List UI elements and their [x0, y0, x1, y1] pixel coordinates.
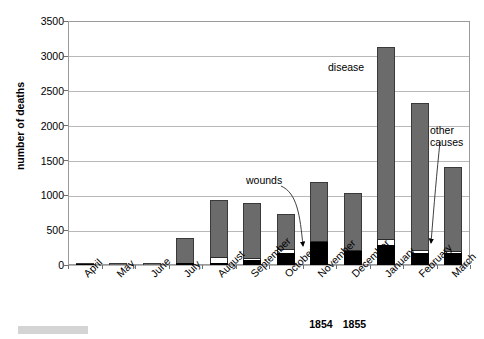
x-tick-mark [202, 265, 203, 269]
x-tick-mark [236, 265, 237, 269]
segment-disease [411, 103, 429, 251]
segment-disease [377, 47, 395, 239]
annotation-other-causes: other causes [430, 124, 463, 148]
footer-swatch [18, 326, 88, 334]
y-tick-label: 500 [24, 225, 64, 235]
x-tick-mark [470, 265, 471, 269]
x-tick-mark [336, 265, 337, 269]
y-tick-label: 3000 [24, 51, 64, 61]
segment-disease [444, 167, 462, 251]
y-axis: 3500 3000 2500 2000 1500 1000 500 0 [20, 0, 64, 339]
y-tick-label: 3500 [24, 16, 64, 26]
segment-wounds [310, 241, 328, 243]
y-axis-title: number of deaths [14, 56, 26, 196]
x-tick-mark [269, 265, 270, 269]
segment-disease [210, 200, 228, 258]
segment-disease [243, 203, 261, 258]
y-tick-label: 1000 [24, 190, 64, 200]
x-tick-mark [169, 265, 170, 269]
x-tick-mark [303, 265, 304, 269]
y-tick-label: 2500 [24, 86, 64, 96]
x-tick-mark [135, 265, 136, 269]
x-tick-mark [403, 265, 404, 269]
y-tick-label: 1500 [24, 156, 64, 166]
bars-layer [68, 21, 470, 265]
annotation-wounds: wounds [246, 174, 282, 186]
x-tick-mark [437, 265, 438, 269]
x-axis: AprilMayJuneJulyAugustSeptemberOctoberNo… [68, 265, 470, 339]
year-label-1854: 1854 [309, 318, 332, 330]
x-tick-mark [68, 265, 69, 269]
y-tick-label: 2000 [24, 121, 64, 131]
year-label-1855: 1855 [343, 318, 366, 330]
x-tick-mark [370, 265, 371, 269]
y-tick-label: 0 [24, 260, 64, 270]
x-tick-mark [102, 265, 103, 269]
segment-disease [310, 182, 328, 241]
annotation-disease: disease [328, 61, 364, 73]
chart-figure: 3500 3000 2500 2000 1500 1000 500 0 numb… [0, 0, 484, 339]
